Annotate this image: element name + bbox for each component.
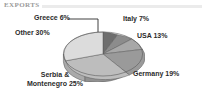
page-title: EXPORTS — [4, 1, 40, 9]
pie-label-greece: Greece 6% — [34, 14, 70, 22]
pie-label-serbia-line2: Montenegro 25% — [18, 80, 92, 89]
exports-pie-chart-figure: EXPORTS — [0, 0, 205, 100]
header-divider — [42, 5, 202, 8]
pie-label-other: Other 30% — [15, 29, 50, 37]
pie-label-italy: Italy 7% — [123, 15, 149, 23]
pie-label-germany: Germany 19% — [133, 70, 179, 78]
pie-label-usa: USA 13% — [137, 32, 167, 40]
chart-area: Greece 6% Italy 7% Other 30% USA 13% Ger… — [0, 10, 205, 100]
greece-leader-line — [68, 17, 106, 33]
pie-label-serbia-montenegro: Serbia & Montenegro 25% — [18, 71, 92, 88]
pie-label-serbia-line1: Serbia & — [18, 71, 92, 80]
greece-leader-path — [68, 19, 98, 32]
